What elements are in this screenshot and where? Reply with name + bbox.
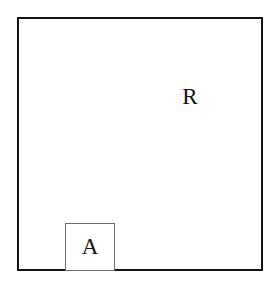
outer-region-rectangle: A [17,17,263,271]
figure-canvas: A R [0,0,277,285]
inner-region-label: A [66,224,114,270]
outer-region-label: R [178,84,202,110]
inner-region-square: A [65,223,115,271]
